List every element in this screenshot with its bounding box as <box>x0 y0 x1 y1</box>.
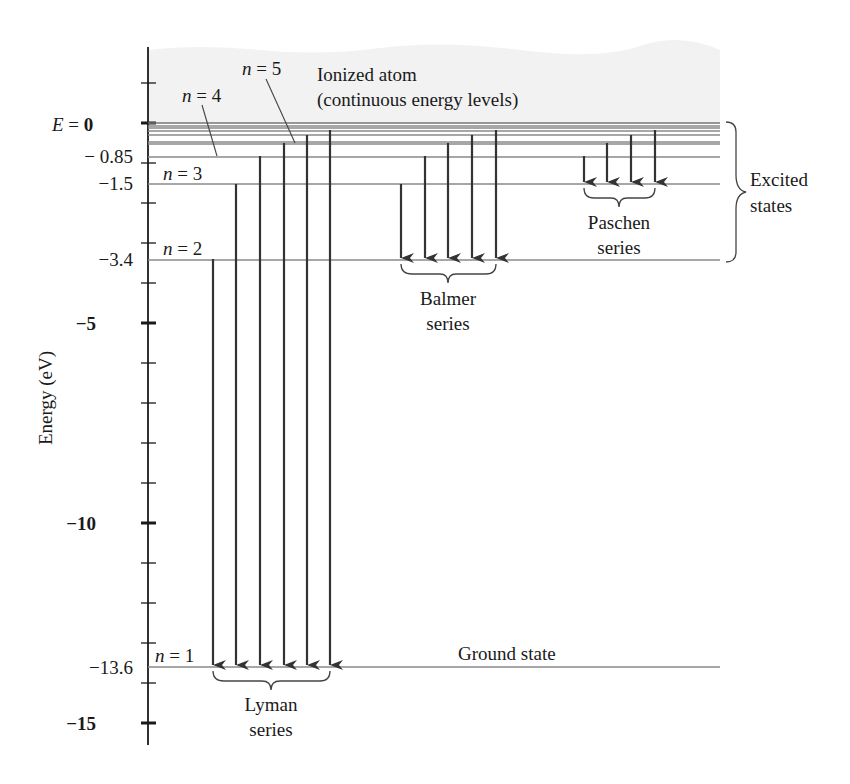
n1-label: n = 1 <box>155 645 194 666</box>
balmer-label-line1: Balmer <box>420 288 477 309</box>
brace-paschen <box>584 188 655 207</box>
value-label-n4: − 0.85 <box>84 146 133 167</box>
braces <box>213 122 746 690</box>
energy-axis <box>141 47 156 745</box>
energy-levels <box>148 123 720 667</box>
value-label-n3: −1.5 <box>99 173 133 194</box>
e-zero-value: 0 <box>84 114 94 135</box>
lyman-label-line1: Lyman <box>245 694 298 715</box>
value-label-n1: −13.6 <box>89 657 133 678</box>
value-label-n2: −3.4 <box>99 249 134 270</box>
paschen-label-line1: Paschen <box>588 212 651 233</box>
excited-label-line1: Excited <box>750 169 809 190</box>
e-zero-eq: = <box>64 114 84 135</box>
n2-label: n = 2 <box>163 238 202 259</box>
brace-excited-states <box>726 122 746 262</box>
n5-label: n = 5 <box>242 58 281 79</box>
brace-balmer <box>401 264 496 283</box>
e-zero-var: E <box>51 114 64 135</box>
paschen-arrows <box>584 130 655 182</box>
ionized-label-line1: Ionized atom <box>317 64 417 85</box>
energy-level-diagram: Energy (eV) E = 0 − 0.85 −1.5 −3.4 −13.6… <box>0 0 850 784</box>
balmer-label-line2: series <box>426 313 469 334</box>
continuum-region <box>148 40 720 123</box>
tick-label-m15: −15 <box>66 713 96 734</box>
axis-title: Energy (eV) <box>35 351 57 445</box>
tick-label-m10: −10 <box>66 513 96 534</box>
lyman-label-line2: series <box>249 719 292 740</box>
n3-label: n = 3 <box>163 163 202 184</box>
n4-label: n = 4 <box>182 85 222 106</box>
ionized-label-line2: (continuous energy levels) <box>317 89 518 111</box>
tick-label-m5: −5 <box>76 313 96 334</box>
ground-state-label: Ground state <box>458 643 556 664</box>
balmer-arrows <box>401 130 496 258</box>
brace-lyman <box>213 671 330 690</box>
e-zero-label: E = 0 <box>51 114 93 135</box>
lyman-arrows <box>213 130 330 665</box>
excited-label-line2: states <box>750 195 792 216</box>
paschen-label-line2: series <box>597 237 640 258</box>
